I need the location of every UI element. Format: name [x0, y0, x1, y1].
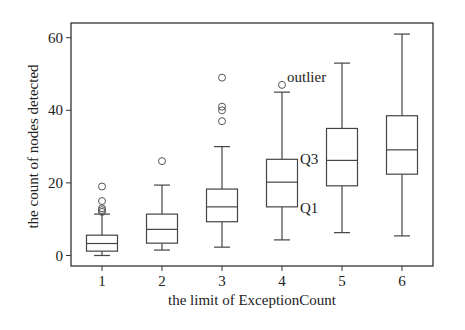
- outlier-point: [279, 81, 286, 88]
- x-tick-label: 3: [218, 273, 226, 289]
- y-tick-label: 0: [56, 248, 64, 264]
- iqr-box: [327, 128, 358, 185]
- x-tick-label: 2: [158, 273, 166, 289]
- outlier-point: [159, 158, 166, 165]
- x-tick-label: 5: [338, 273, 346, 289]
- annotation-q3: Q3: [300, 151, 318, 167]
- box-6: [387, 34, 418, 236]
- box-2: [147, 158, 178, 250]
- outlier-point: [219, 118, 226, 125]
- x-axis-title: the limit of ExceptionCount: [168, 292, 337, 308]
- y-tick-label: 20: [48, 175, 63, 191]
- annotation-q1: Q1: [300, 200, 318, 216]
- iqr-box: [147, 214, 178, 243]
- iqr-box: [207, 189, 238, 222]
- outlier-point: [219, 74, 226, 81]
- box-3: [207, 74, 238, 247]
- x-tick-label: 1: [98, 273, 106, 289]
- box-plot-chart: 0204060 123456 outlierQ3Q1 the limit of …: [0, 0, 465, 330]
- iqr-box: [267, 159, 298, 207]
- y-tick-label: 60: [48, 30, 63, 46]
- box-series: [87, 34, 418, 255]
- box-4: [267, 81, 298, 240]
- y-axis-title: the count of nodes detected: [25, 64, 41, 229]
- box-1: [87, 183, 118, 255]
- outlier-point: [99, 198, 106, 205]
- plot-frame: [71, 23, 433, 266]
- y-axis: 0204060: [48, 30, 71, 264]
- y-tick-label: 40: [48, 102, 63, 118]
- annotation-outlier: outlier: [287, 69, 326, 85]
- x-axis: 123456: [98, 266, 406, 289]
- x-tick-label: 4: [278, 273, 286, 289]
- box-5: [327, 63, 358, 233]
- x-tick-label: 6: [398, 273, 406, 289]
- iqr-box: [387, 116, 418, 174]
- outlier-point: [99, 183, 106, 190]
